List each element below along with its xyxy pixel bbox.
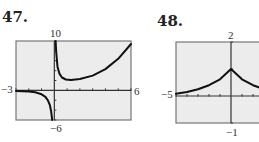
plots-canvas [0, 0, 259, 142]
